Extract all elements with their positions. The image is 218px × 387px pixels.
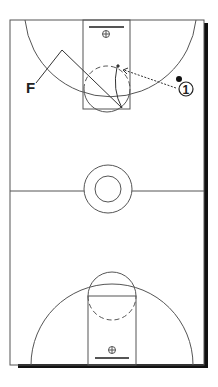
bottom-free-throw-circle-lower: [88, 296, 136, 320]
pass-line: [124, 70, 176, 88]
marker-f-label: F: [26, 79, 35, 96]
play-actions: [36, 50, 176, 108]
court-diagram: 1 F: [0, 0, 218, 387]
ball-icon: [176, 76, 182, 82]
target-dot: [117, 65, 119, 67]
player-1-label: 1: [183, 83, 190, 97]
player-1: 1: [176, 76, 193, 97]
cut-path-f: [36, 50, 122, 108]
center-circle-outer: [84, 165, 132, 213]
bottom-key: [88, 296, 136, 365]
court: [10, 20, 204, 365]
top-three-point-arc: [25, 20, 196, 97]
